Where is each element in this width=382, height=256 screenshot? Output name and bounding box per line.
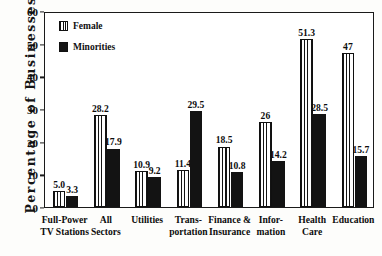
legend-item-minorities: Minorities [59,42,115,52]
bar-female [135,171,148,207]
bar-value-label: 3.3 [59,185,86,195]
legend-item-female: Female [59,21,115,31]
chart-legend: Female Minorities [59,21,115,63]
bar-value-label: 15.7 [348,145,375,155]
bar-female [259,122,272,207]
bar-value-label: 47 [335,42,362,52]
x-category-label-line: Sectors [81,226,130,238]
y-axis-title: Percentage of Businesses [23,0,38,214]
x-category-label-line: Education [329,214,378,226]
bar-minorities [107,149,120,207]
chart-figure: Percentage of Businesses 6050403020100 F… [0,0,382,256]
bar-minorities [313,114,326,207]
x-category-label: Education [329,214,378,226]
bar-minorities [231,172,244,207]
bar-female [300,39,313,207]
legend-label-female: Female [73,21,103,31]
x-axis-category-labels: Full-PowerTV StationsAllSectorsUtilities… [44,211,374,251]
bar-female [218,147,231,207]
bar-value-label: 28.5 [306,103,333,113]
bar-value-label: 9.2 [141,166,168,176]
bar-female [94,115,107,207]
bar-minorities [272,161,285,207]
bar-female [177,170,190,207]
bar-minorities [190,111,203,207]
bar-minorities [355,156,368,207]
female-swatch-icon [59,21,68,31]
bar-value-label: 51.3 [293,28,320,38]
bar-value-label: 10.8 [224,161,251,171]
bar-minorities [66,196,79,207]
bar-value-label: 26 [252,111,279,121]
bar-value-label: 14.2 [265,150,292,160]
minorities-swatch-icon [59,42,68,52]
bar-value-label: 17.9 [100,137,127,147]
x-category-label-line: Care [288,226,337,238]
bar-value-label: 28.2 [87,104,114,114]
legend-label-minorities: Minorities [73,42,115,52]
bar-value-label: 18.5 [211,135,238,145]
bar-female [342,53,355,207]
bar-value-label: 29.5 [183,100,210,110]
plot-area: Female Minorities 5.03.328.217.910.99.21… [44,12,374,208]
bar-minorities [148,177,161,207]
